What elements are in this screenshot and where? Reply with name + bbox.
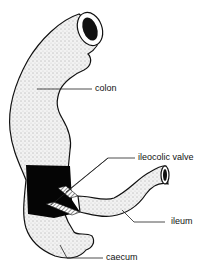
label-ileum: ileum [171, 216, 193, 226]
colon-shape [10, 14, 102, 258]
ileum-shape [78, 166, 169, 217]
label-caecum: caecum [106, 252, 138, 262]
diagram-canvas: colon ileocolic valve ileum caecum [0, 0, 211, 274]
label-ileocolic-valve: ileocolic valve [138, 152, 194, 162]
ileum-leader-line [122, 210, 165, 222]
ileocolic-valve-leader-line [66, 158, 135, 192]
label-colon: colon [95, 83, 117, 93]
cut-section [26, 165, 80, 218]
